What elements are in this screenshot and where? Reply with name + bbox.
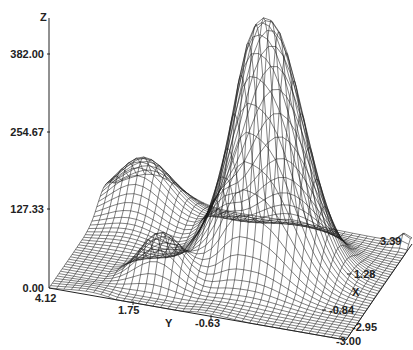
y-axis-line bbox=[49, 288, 346, 340]
y-axis-label: Y bbox=[165, 318, 172, 329]
x-tick-label-084: -0.84 bbox=[329, 305, 354, 316]
y-tick-label-063: -0.63 bbox=[195, 318, 220, 329]
x-axis-label: X bbox=[352, 287, 359, 298]
x-tick-label-128: 1.28 bbox=[354, 269, 375, 280]
z-tick-label-127: 127.33 bbox=[10, 204, 44, 215]
z-tick-label-254: 254.67 bbox=[10, 127, 44, 138]
z-tick-label-382: 382.00 bbox=[10, 49, 44, 60]
z-axis-label: Z bbox=[40, 12, 47, 23]
y-tick-label-300: -3.00 bbox=[336, 336, 361, 347]
y-tick-label-175: 1.75 bbox=[118, 305, 139, 316]
x-tick-label-295: -2.95 bbox=[352, 322, 377, 333]
y-tick-label-412: 4.12 bbox=[35, 293, 56, 304]
x-tick-label-339: 3.39 bbox=[380, 236, 401, 247]
